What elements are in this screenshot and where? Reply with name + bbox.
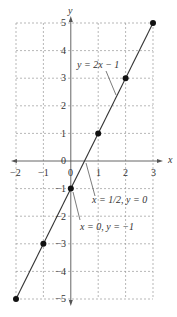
svg-text:−4: −4 — [55, 266, 66, 277]
y-intercept-label: x = 0, y = −1 — [79, 221, 134, 232]
equation-label: y = 2x − 1 — [76, 59, 119, 70]
x-intercept-leader — [86, 163, 95, 196]
line-chart: x y −2 −1 0 1 2 3 5 4 3 2 1 0 −1 −2 −3 −… — [0, 0, 177, 317]
svg-text:−3: −3 — [55, 238, 66, 249]
svg-text:4: 4 — [61, 45, 66, 56]
y-axis-label: y — [67, 5, 73, 16]
svg-text:−1: −1 — [38, 167, 49, 178]
x-tick-labels: −2 −1 0 1 2 3 — [10, 167, 156, 178]
svg-text:0: 0 — [61, 155, 66, 166]
svg-text:−2: −2 — [10, 167, 21, 178]
svg-text:1: 1 — [96, 167, 101, 178]
svg-text:2: 2 — [61, 100, 66, 111]
x-axis — [11, 159, 163, 163]
svg-text:−5: −5 — [55, 293, 66, 304]
y-intercept-leader — [73, 192, 80, 220]
x-axis-label: x — [167, 154, 173, 165]
svg-text:3: 3 — [151, 167, 156, 178]
x-intercept-label: x = 1/2, y = 0 — [91, 194, 147, 205]
svg-text:5: 5 — [61, 17, 66, 28]
y-tick-labels: 5 4 3 2 1 0 −1 −2 −3 −4 −5 — [55, 17, 66, 304]
equation-leader — [106, 71, 116, 95]
svg-text:1: 1 — [61, 128, 66, 139]
svg-text:2: 2 — [123, 167, 128, 178]
svg-text:3: 3 — [61, 72, 66, 83]
svg-text:0: 0 — [68, 167, 73, 178]
svg-text:−1: −1 — [55, 183, 66, 194]
